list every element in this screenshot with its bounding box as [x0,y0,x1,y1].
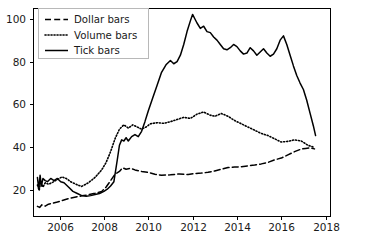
chart-legend: Dollar barsVolume barsTick bars [39,9,149,59]
y-tick-label: 40 [13,141,26,153]
x-tick-label: 2008 [91,221,118,233]
x-tick-label: 2006 [47,221,74,233]
x-tick-label: 2018 [313,221,340,233]
y-tick-label: 60 [13,98,26,110]
legend-label-dollar-bars: Dollar bars [74,14,130,25]
y-tick-label: 20 [13,184,26,196]
x-tick-label: 2012 [180,221,207,233]
x-tick-label: 2014 [224,221,251,233]
y-tick-label: 80 [13,56,26,68]
legend-label-tick-bars: Tick bars [73,45,120,56]
y-tick-label: 100 [6,13,26,25]
line-chart: 2006200820102012201420162018 20406080100… [0,0,366,246]
figure-canvas: 2006200820102012201420162018 20406080100… [0,0,366,246]
legend-label-volume-bars: Volume bars [74,30,137,41]
x-tick-label: 2010 [135,221,162,233]
x-tick-label: 2016 [268,221,295,233]
